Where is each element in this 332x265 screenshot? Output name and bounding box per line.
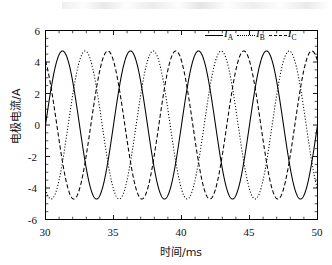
chart-figure: 电极电流/A 时间/ms 6 4 2 0 -2 -4 -6 30 35 40 4…	[0, 0, 332, 265]
legend-label-ic: IC	[288, 27, 300, 42]
x-tick-label: 40	[166, 226, 196, 238]
legend-item-ib: IB	[236, 27, 268, 42]
y-tick-label: 4	[14, 56, 40, 68]
x-axis-label: 时间/ms	[45, 243, 317, 259]
x-tick-label: 50	[302, 226, 332, 238]
y-tick-label: 6	[14, 25, 40, 37]
chart-legend: IA IB IC	[204, 27, 299, 42]
legend-line-solid-icon	[204, 30, 224, 40]
legend-line-dashed-icon	[268, 30, 288, 40]
legend-item-ic: IC	[268, 27, 300, 42]
legend-item-ia: IA	[204, 27, 236, 42]
y-tick-label: 2	[14, 88, 40, 100]
y-axis-label: 电极电流/A	[7, 70, 23, 162]
x-tick-label: 45	[234, 226, 264, 238]
y-tick-label: -6	[11, 214, 37, 226]
y-tick-label: -4	[11, 182, 37, 194]
x-tick-label: 30	[30, 226, 60, 238]
legend-label-ia: IA	[224, 27, 236, 42]
y-tick-label: 0	[14, 119, 40, 131]
x-tick-label: 35	[98, 226, 128, 238]
legend-line-dotted-icon	[236, 30, 256, 40]
legend-label-ib: IB	[256, 27, 268, 42]
y-tick-label: -2	[11, 151, 37, 163]
